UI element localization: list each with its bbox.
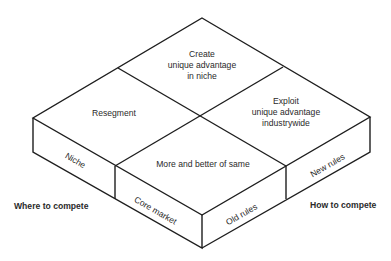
side-label-old-rules: Old rules: [224, 201, 259, 227]
side-label-new-rules: New rules: [308, 152, 346, 180]
svg-text:Create: Create: [189, 49, 215, 59]
strategy-cube-diagram: Create unique advantage in niche Resegme…: [0, 0, 391, 261]
svg-text:unique advantage: unique advantage: [252, 107, 321, 117]
quadrant-right-label: Exploit unique advantage industrywide: [252, 96, 321, 128]
quadrant-left-label: Resegment: [92, 108, 137, 118]
left-side-face: [33, 118, 202, 248]
axis-label-how-to-compete: How to compete: [310, 200, 377, 210]
quadrant-back-label: Create unique advantage in niche: [168, 49, 237, 81]
svg-text:Exploit: Exploit: [273, 96, 299, 106]
quadrant-front-label: More and better of same: [156, 159, 250, 169]
svg-text:in niche: in niche: [187, 71, 217, 81]
divider-left-to-front: [118, 68, 286, 166]
svg-text:unique advantage: unique advantage: [168, 60, 237, 70]
svg-text:industrywide: industrywide: [262, 118, 310, 128]
axis-label-where-to-compete: Where to compete: [14, 201, 89, 211]
side-label-niche: Niche: [63, 151, 87, 171]
